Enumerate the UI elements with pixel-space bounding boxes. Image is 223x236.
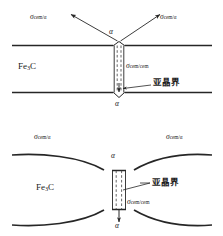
bottom-alpha-bottom-label: α <box>115 222 119 230</box>
top-arrow-right <box>121 15 161 42</box>
bottom-sigma-channel-label: σcem/cem <box>127 198 149 206</box>
top-bottom-notch <box>114 93 125 98</box>
top-subgrain-annotation: 亚晶界 <box>153 78 180 87</box>
top-alpha-bottom-label: α <box>115 100 119 108</box>
bottom-alpha-top-label: α <box>111 152 115 160</box>
bottom-subgrain-annotation: 亚晶界 <box>152 178 179 187</box>
bottom-upper-right-curve <box>134 154 212 170</box>
bottom-lower-left-curve <box>12 210 104 226</box>
top-vertex-notch <box>114 42 125 46</box>
bottom-phase-label: Fe3C <box>36 183 54 192</box>
figure-container: σcem/α σcem/α α Fe3C σcem/cem 亚晶界 α σcem… <box>0 0 223 236</box>
top-sigma-channel-label: σcem/cem <box>126 62 148 70</box>
top-sigma-left-label: σcem/α <box>30 13 47 21</box>
top-annotation-leader <box>123 85 151 89</box>
bottom-upper-left-curve <box>12 154 104 170</box>
bottom-lower-right-curve <box>134 210 212 226</box>
bottom-sigma-right-label: σcem/α <box>166 133 183 141</box>
bottom-annotation-leader <box>123 183 150 190</box>
bottom-sigma-left-label: σcem/α <box>34 133 51 141</box>
top-alpha-vertex-label: α <box>109 28 113 36</box>
top-phase-label: Fe3C <box>18 62 36 71</box>
top-sigma-right-label: σcem/α <box>160 13 177 21</box>
